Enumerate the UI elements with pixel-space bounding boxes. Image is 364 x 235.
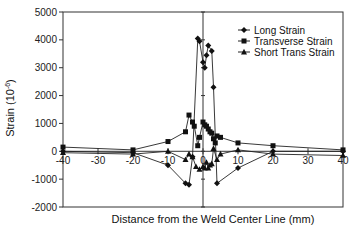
- y-axis-title: Strain (10-6): [4, 79, 16, 137]
- legend-item: Transverse Strain: [238, 36, 333, 47]
- triangle-marker: [193, 163, 199, 169]
- square-marker: [209, 131, 214, 136]
- triangle-marker: [60, 149, 66, 155]
- legend-label: Short Trans Strain: [254, 47, 335, 58]
- legend-item: Short Trans Strain: [238, 47, 335, 58]
- x-axis-title: Distance from the Weld Center Line (mm): [112, 213, 315, 225]
- square-marker: [195, 143, 200, 148]
- diamond-marker: [209, 48, 215, 54]
- square-marker: [197, 135, 202, 140]
- square-marker: [192, 124, 197, 129]
- y-tick-label: 4000: [35, 34, 58, 45]
- y-axis-title-close: ): [4, 79, 16, 83]
- square-marker: [183, 129, 188, 134]
- square-marker: [341, 147, 346, 152]
- square-marker: [271, 143, 276, 148]
- y-tick-label: 5000: [35, 7, 58, 18]
- triangle-marker: [183, 156, 189, 162]
- diamond-marker: [205, 42, 211, 48]
- y-tick-label: 1000: [35, 118, 58, 129]
- square-marker: [187, 113, 192, 118]
- x-tick-label: 10: [232, 155, 244, 166]
- square-marker: [166, 139, 171, 144]
- square-marker: [213, 140, 218, 145]
- triangle-marker: [235, 147, 241, 153]
- triangle-marker: [214, 156, 220, 162]
- diamond-marker: [204, 52, 210, 58]
- legend: Long StrainTransverse StrainShort Trans …: [238, 25, 335, 58]
- square-marker: [236, 140, 241, 145]
- y-tick-label: 2000: [35, 90, 58, 101]
- y-tick-label: -1000: [31, 174, 57, 185]
- x-tick-label: -20: [126, 155, 141, 166]
- legend-item: Long Strain: [238, 25, 305, 36]
- square-marker: [242, 39, 247, 44]
- y-axis-title-base: Strain (10: [4, 89, 16, 137]
- y-tick-label: 3000: [35, 62, 58, 73]
- square-marker: [218, 135, 223, 140]
- diamond-marker: [211, 84, 217, 90]
- x-tick-label: -30: [91, 155, 106, 166]
- x-tick-label: 30: [302, 155, 314, 166]
- strain-chart: -2000-1000010002000300040005000-40-30-20…: [0, 0, 364, 235]
- legend-label: Transverse Strain: [254, 36, 333, 47]
- diamond-marker: [241, 27, 247, 33]
- x-tick-label: -40: [56, 155, 71, 166]
- y-tick-label: -2000: [31, 202, 57, 213]
- square-marker: [61, 145, 66, 150]
- legend-label: Long Strain: [254, 25, 305, 36]
- x-tick-label: 20: [267, 155, 279, 166]
